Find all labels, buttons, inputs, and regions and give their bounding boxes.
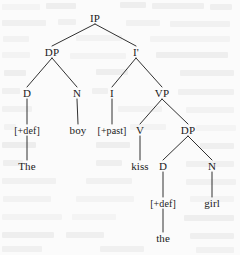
tree-node-v: V xyxy=(136,125,144,136)
tree-branch xyxy=(163,136,188,160)
tree-node-the: The xyxy=(18,161,35,172)
tree-node-kiss: kiss xyxy=(131,161,149,172)
tree-branch xyxy=(162,99,188,124)
tree-branch xyxy=(77,99,78,124)
tree-node-girl: girl xyxy=(204,198,220,209)
tree-node-ibar: I' xyxy=(133,47,139,58)
tree-branch xyxy=(52,58,77,87)
tree-node-i1: I xyxy=(110,88,114,99)
tree-node-ddef2: [+def] xyxy=(150,198,176,209)
tree-node-vp: VP xyxy=(155,88,169,99)
tree-branch xyxy=(112,58,136,87)
tree-branch xyxy=(27,58,52,87)
tree-branch xyxy=(140,99,162,124)
tree-node-ddef1: [+def] xyxy=(14,125,40,136)
tree-node-ip: IP xyxy=(90,13,100,24)
syntax-tree-figure: IPDPI'DNIVP[+def]boy[+past]VDPThekissDN[… xyxy=(0,0,240,255)
tree-node-d2: D xyxy=(159,161,167,172)
tree-node-boy: boy xyxy=(70,125,87,136)
tree-branch xyxy=(188,136,212,160)
tree-branch xyxy=(136,58,162,87)
tree-node-the: the xyxy=(156,233,170,244)
tree-node-n1: N xyxy=(73,88,81,99)
tree-node-dp1: DP xyxy=(45,47,59,58)
tree-node-n2: N xyxy=(208,161,216,172)
tree-node-dp2: DP xyxy=(181,125,195,136)
tree-node-d1: D xyxy=(23,88,31,99)
tree-node-past: [+past] xyxy=(97,125,126,136)
tree-branch xyxy=(52,24,95,46)
tree-branch xyxy=(95,24,136,46)
